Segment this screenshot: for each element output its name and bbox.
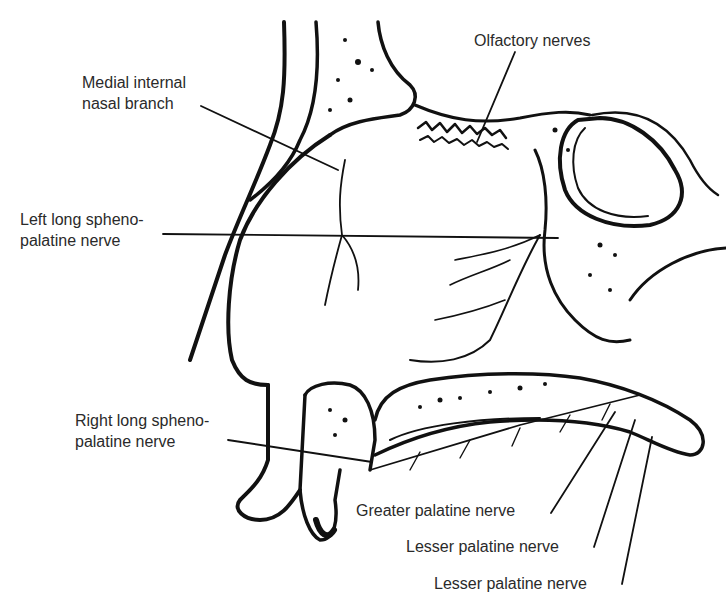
label-lesser-palatine-nerve-1: Lesser palatine nerve [406, 536, 559, 557]
label-line: Greater palatine nerve [356, 500, 515, 521]
label-right-long-sphenopalatine-nerve: Right long spheno- palatine nerve [75, 410, 209, 452]
label-line: palatine nerve [20, 230, 144, 251]
label-line: Olfactory nerves [474, 30, 590, 51]
label-line: Lesser palatine nerve [406, 536, 559, 557]
label-line: Right long spheno- [75, 410, 209, 431]
label-lesser-palatine-nerve-2: Lesser palatine nerve [434, 573, 587, 594]
label-line: Lesser palatine nerve [434, 573, 587, 594]
label-left-long-sphenopalatine-nerve: Left long spheno- palatine nerve [20, 209, 144, 251]
label-line: Medial internal [82, 72, 186, 93]
label-greater-palatine-nerve: Greater palatine nerve [356, 500, 515, 521]
label-line: palatine nerve [75, 431, 209, 452]
label-line: Left long spheno- [20, 209, 144, 230]
label-line: nasal branch [82, 93, 186, 114]
label-medial-internal-nasal-branch: Medial internal nasal branch [82, 72, 186, 114]
label-olfactory-nerves: Olfactory nerves [474, 30, 590, 51]
